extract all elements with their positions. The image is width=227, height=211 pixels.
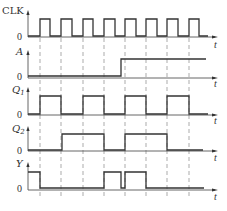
zero-label-q2: 0 (17, 145, 22, 156)
waveform-y (28, 172, 204, 188)
time-label-q2: t (214, 152, 217, 163)
zero-label-a: 0 (17, 71, 22, 82)
timing-diagram: CLK 0 A 0 Q1 0 Q2 0 Y 0 t t t t t (0, 0, 227, 211)
y-axis-arrow-icon-y (26, 162, 29, 167)
y-axis-arrow-icon-q2 (26, 126, 29, 131)
y-axis-arrow-icon-clk (26, 10, 29, 15)
y-axis-arrow-icon-q1 (26, 87, 29, 92)
y-axis-arrow-icon-a (26, 50, 29, 55)
time-label-clk: t (214, 39, 217, 50)
label-y: Y (16, 158, 24, 169)
time-label-a: t (214, 78, 217, 89)
signal-waveforms (28, 19, 208, 188)
label-a: A (15, 46, 23, 57)
label-q2: Q2 (12, 123, 25, 136)
time-label-y: t (214, 191, 217, 202)
label-clk: CLK (2, 5, 24, 16)
zero-label-clk: 0 (17, 31, 22, 42)
time-label-q1: t (214, 115, 217, 126)
zero-label-y: 0 (17, 183, 22, 194)
waveform-clk (28, 19, 208, 36)
waveform-q1 (28, 96, 208, 114)
waveform-a (28, 59, 206, 76)
zero-label-q1: 0 (17, 109, 22, 120)
label-q1: Q1 (12, 84, 25, 97)
waveform-q2 (28, 134, 203, 150)
